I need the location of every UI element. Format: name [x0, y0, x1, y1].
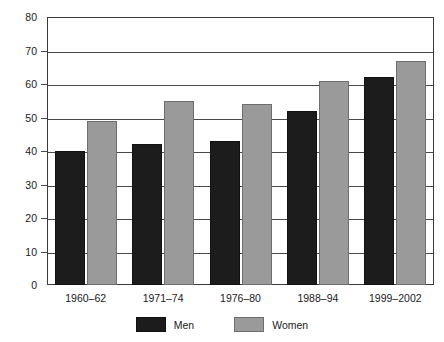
chart-legend: MenWomen: [0, 317, 444, 332]
bar-men-1971–74: [132, 144, 162, 285]
bar-men-1976–80: [210, 141, 240, 285]
bars-layer: [47, 17, 434, 285]
legend-swatch-women-icon: [234, 317, 264, 332]
y-tick-label-0: 0: [0, 280, 37, 290]
legend-label-women: Women: [272, 319, 308, 331]
legend-item-men: Men: [136, 317, 194, 332]
y-tick-label-10: 10: [0, 247, 37, 257]
bar-women-1999–2002: [396, 61, 426, 285]
bar-women-1988–94: [319, 81, 349, 285]
y-tick-label-50: 50: [0, 113, 37, 123]
bar-women-1971–74: [164, 101, 194, 285]
bar-women-1960–62: [87, 121, 117, 285]
x-axis-label-1971–74: 1971–74: [124, 292, 201, 304]
bar-women-1976–80: [242, 104, 272, 285]
legend-label-men: Men: [174, 319, 194, 331]
x-axis-label-1999–2002: 1999–2002: [357, 292, 434, 304]
bar-men-1999–2002: [364, 77, 394, 285]
x-axis-label-1976–80: 1976–80: [202, 292, 279, 304]
y-tick-label-40: 40: [0, 146, 37, 156]
legend-item-women: Women: [234, 317, 308, 332]
y-tick-label-20: 20: [0, 213, 37, 223]
y-tick-label-60: 60: [0, 79, 37, 89]
x-axis-label-1960–62: 1960–62: [47, 292, 124, 304]
bar-men-1960–62: [55, 151, 85, 285]
y-tick-label-70: 70: [0, 46, 37, 56]
y-tick-label-80: 80: [0, 12, 37, 22]
y-tick-label-30: 30: [0, 180, 37, 190]
bar-men-1988–94: [287, 111, 317, 285]
overweight-prevalence-bar-chart: Prevalence of Overweight (%) 80706050403…: [0, 0, 444, 342]
legend-swatch-men-icon: [136, 317, 166, 332]
x-axis-label-1988–94: 1988–94: [279, 292, 356, 304]
